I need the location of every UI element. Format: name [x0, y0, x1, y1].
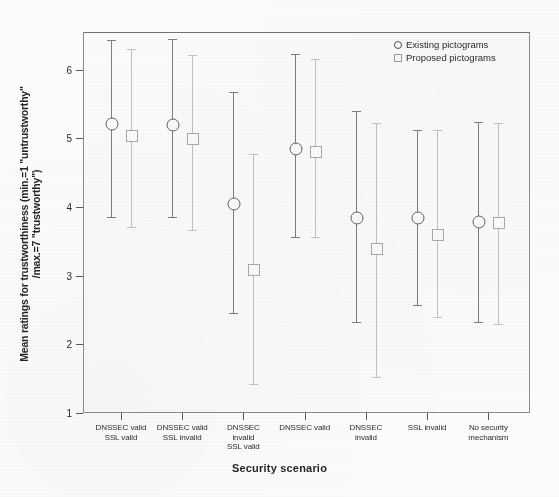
error-bar-cap — [188, 230, 197, 231]
y-tick-label: 2 — [50, 339, 72, 350]
error-bar-cap — [433, 130, 442, 131]
legend-label-existing: Existing pictograms — [406, 38, 488, 51]
y-tick-label: 6 — [50, 64, 72, 75]
y-axis-title-line2: /max.=7 "trustworthy") — [30, 170, 42, 279]
y-axis-title: Mean ratings for trustworthiness (min.=1… — [18, 24, 42, 424]
y-tick-mark — [76, 207, 83, 208]
error-bar-cap — [249, 384, 258, 385]
y-tick-mark — [76, 413, 83, 414]
data-point-marker — [289, 143, 302, 156]
y-tick-mark — [76, 344, 83, 345]
y-tick-label: 1 — [50, 408, 72, 419]
plot-area — [83, 32, 530, 413]
data-point-marker — [187, 133, 199, 145]
error-bar-cap — [127, 227, 136, 228]
circle-marker-icon — [393, 40, 402, 49]
legend-item-existing: Existing pictograms — [393, 38, 496, 51]
data-point-marker — [473, 216, 486, 229]
data-point-marker — [167, 118, 180, 131]
y-axis-title-line1: Mean ratings for trustworthiness (min.=1… — [18, 86, 30, 362]
error-bar-cap — [168, 39, 177, 40]
square-marker-icon — [393, 53, 402, 62]
x-tick-mark — [488, 413, 489, 420]
error-bar-cap — [433, 317, 442, 318]
error-bar-cap — [474, 122, 483, 123]
data-point-marker — [310, 146, 322, 158]
error-bar-cap — [494, 324, 503, 325]
error-bar-cap — [107, 40, 116, 41]
y-tick-mark — [76, 138, 83, 139]
x-tick-label: No securitymechanism — [445, 423, 531, 442]
error-bar-cap — [127, 49, 136, 50]
error-bar-cap — [352, 111, 361, 112]
data-point-marker — [105, 118, 118, 131]
error-bar-cap — [229, 92, 238, 93]
data-point-marker — [350, 212, 363, 225]
data-point-marker — [126, 130, 138, 142]
x-tick-mark — [121, 413, 122, 420]
error-bar-cap — [413, 130, 422, 131]
y-tick-label: 3 — [50, 270, 72, 281]
y-tick-mark — [76, 276, 83, 277]
x-tick-mark — [305, 413, 306, 420]
error-bar-cap — [352, 322, 361, 323]
x-tick-mark — [182, 413, 183, 420]
error-bar-cap — [311, 59, 320, 60]
data-point-marker — [228, 197, 241, 210]
x-tick-mark — [366, 413, 367, 420]
error-bar-cap — [249, 154, 258, 155]
y-tick-mark — [76, 70, 83, 71]
error-bar-cap — [291, 237, 300, 238]
y-tick-label: 4 — [50, 202, 72, 213]
data-point-marker — [248, 264, 260, 276]
error-bar — [437, 130, 438, 317]
data-point-marker — [412, 212, 425, 225]
error-bar-cap — [188, 55, 197, 56]
error-bar-cap — [413, 305, 422, 306]
data-point-marker — [432, 229, 444, 241]
error-bar-cap — [372, 123, 381, 124]
x-tick-mark — [243, 413, 244, 420]
x-tick-mark — [427, 413, 428, 420]
error-bar-cap — [168, 217, 177, 218]
y-tick-label: 5 — [50, 133, 72, 144]
error-bar-cap — [291, 54, 300, 55]
legend-item-proposed: Proposed pictograms — [393, 51, 496, 64]
data-point-marker — [493, 217, 505, 229]
error-bar-cap — [474, 322, 483, 323]
error-bar-cap — [372, 377, 381, 378]
legend-label-proposed: Proposed pictograms — [406, 51, 496, 64]
x-axis-title: Security scenario — [0, 462, 559, 474]
legend: Existing pictograms Proposed pictograms — [393, 38, 496, 64]
error-bar-cap — [229, 313, 238, 314]
error-bar-chart: Mean ratings for trustworthiness (min.=1… — [0, 0, 559, 497]
error-bar-cap — [107, 217, 116, 218]
data-point-marker — [371, 243, 383, 255]
error-bar-cap — [494, 123, 503, 124]
error-bar-cap — [311, 237, 320, 238]
